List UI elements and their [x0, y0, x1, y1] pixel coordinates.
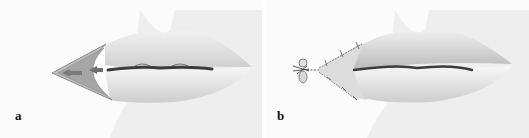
panel-label-a: a	[15, 108, 22, 124]
panel-b: b	[267, 0, 529, 138]
panel-label-b: b	[277, 108, 284, 124]
lip-illustration-b	[267, 0, 529, 138]
suture-knot-icon	[293, 59, 309, 83]
lip-illustration-a	[0, 0, 262, 138]
panel-a: a	[0, 0, 262, 138]
